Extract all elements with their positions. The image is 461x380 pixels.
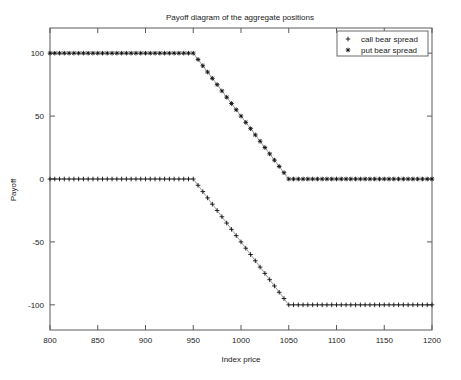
x-tick-label: 1100 [328,336,346,345]
y-tick-label: 100 [31,49,45,58]
x-tick-label: 1000 [232,336,250,345]
x-tick-label: 1200 [423,336,441,345]
x-axis-title: Index price [221,355,261,364]
series-put-bear-spread [48,51,435,181]
x-tick-label: 950 [187,336,201,345]
x-tick-label: 1150 [376,336,394,345]
data-series [48,51,435,307]
payoff-chart-figure: 80085090095010001050110011501200100500-5… [0,0,461,380]
series-markers [48,177,435,307]
y-tick-label: 0 [40,175,45,184]
chart-title: Payoff diagram of the aggregate position… [166,13,314,22]
y-tick-label: -50 [32,238,44,247]
x-tick-label: 800 [43,336,57,345]
legend-label: put bear spread [361,46,417,55]
legend-label: call bear spread [361,35,418,44]
y-tick-label: 50 [35,112,44,121]
series-call-bear-spread [48,177,435,307]
x-tick-label: 1050 [280,336,298,345]
y-axis-title: Payoff [9,178,18,201]
chart-legend[interactable]: call bear spreadput bear spread [337,31,428,56]
axis-tick-labels: 80085090095010001050110011501200100500-5… [28,49,441,345]
chart-canvas: 80085090095010001050110011501200100500-5… [0,0,461,380]
x-tick-label: 900 [139,336,153,345]
x-tick-label: 850 [91,336,105,345]
y-tick-label: -100 [28,301,45,310]
series-markers [48,51,435,181]
